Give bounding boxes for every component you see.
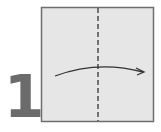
origami-diagram [0,0,161,132]
